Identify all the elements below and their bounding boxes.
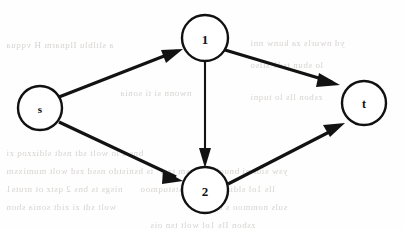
edge-s-to-1-arrowhead [161,49,183,63]
edge-1-to-t-arrowhead [316,73,340,87]
node-s[interactable]: s [18,86,62,130]
edge-1-to-t-line [225,50,332,82]
node-t-label: t [362,97,366,111]
edge-s-to-1-line [59,51,177,97]
diagram-canvas: a sltlblu Ilqnarm H vqquayd nwurls za ku… [0,0,404,230]
edge-s-to-1 [59,49,183,97]
edge-1-to-2 [199,61,211,168]
edge-s-to-2-line [59,122,176,177]
edge-group [59,49,345,184]
edge-1-to-2-arrowhead [199,148,211,168]
edge-s-to-2-arrowhead [162,170,183,184]
node-1-label: 1 [202,32,209,47]
node-2[interactable]: 2 [182,167,228,213]
edge-2-to-t-line [228,128,337,184]
node-2-label: 2 [202,184,209,199]
node-group: s 1 2 t [18,15,386,213]
node-1[interactable]: 1 [182,15,228,61]
edge-2-to-t [228,123,345,184]
node-s-label: s [38,103,43,115]
edge-s-to-2 [59,122,183,184]
flow-network-graph: s 1 2 t [0,0,404,230]
node-t[interactable]: t [342,81,386,125]
edge-1-to-t [225,50,340,87]
